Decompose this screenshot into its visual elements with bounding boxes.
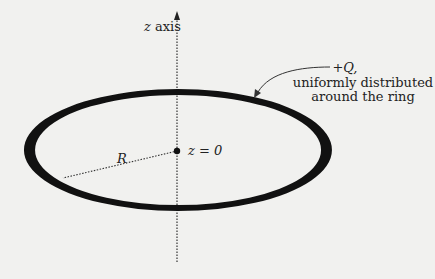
z-axis-label: z axis [143, 19, 181, 34]
charge-description-line2: around the ring [311, 89, 414, 104]
ring-charge-diagram: z axis z = 0 R +Q, uniformly distributed… [0, 0, 435, 279]
charge-label: +Q, [332, 60, 357, 75]
center-dot [174, 148, 180, 154]
radius-label: R [116, 151, 127, 166]
pointer-arrow-icon [254, 89, 261, 98]
charge-description-line1: uniformly distributed [293, 75, 433, 90]
center-label: z = 0 [187, 143, 222, 158]
